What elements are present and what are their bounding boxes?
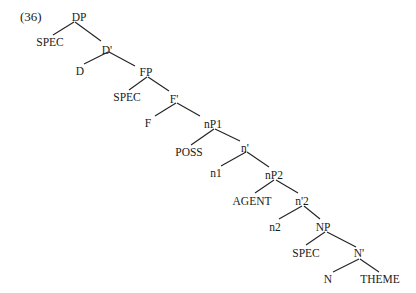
tree-edge-NP-SPEC3 [306,232,325,245]
tree-edge-Fbar-nP1 [177,103,200,116]
tree-edge-nbar2-n2 [279,206,302,219]
tree-node-dbar: D' [102,44,112,56]
tree-node-n1: n1 [210,167,222,179]
tree-node-fbar: F' [170,93,178,105]
tree-node-dp: DP [72,11,87,23]
tree-node-nbar: N' [354,247,364,259]
tree-node-spec1: SPEC [36,36,64,48]
tree-node-n2: n2 [269,221,281,233]
tree-node-nbar: n' [241,142,249,154]
tree-edge-nP2-AGENT [255,180,274,193]
tree-node-np: NP [316,221,331,233]
tree-edge-FP-Fbar [148,77,169,91]
tree-edge-DP-Dbar [75,22,101,41]
tree-edge-nP1-POSS [191,129,214,145]
tree-node-np2: nP2 [265,169,283,181]
tree-edge-Nbar-THEME [360,259,379,272]
tree-edge-nP1-nbar [215,129,240,141]
tree-node-spec2: SPEC [113,91,141,103]
tree-edge-NP-Nbar [327,232,356,247]
tree-node-n: N [324,273,332,285]
tree-edge-nP2-nbar2 [276,180,298,193]
tree-edge-nbar-n1 [221,152,246,166]
tree-node-nbar2: n'2 [295,195,309,207]
tree-node-fp: FP [140,66,153,78]
tree-edge-DP-SPEC1 [53,22,74,35]
tree-node-theme: THEME [360,273,400,285]
tree-edge-nbar-nP2 [247,152,269,167]
tree-node-np1: nP1 [204,118,222,130]
tree-edge-Nbar-N [333,259,359,272]
tree-edge-nbar2-NP [304,206,320,219]
tree-node-d: D [76,65,84,77]
example-number: (36) [20,10,42,24]
tree-edge-Dbar-FP [109,52,135,66]
tree-node-spec3: SPEC [292,247,320,259]
syntax-tree-figure: (36) DPSPECD'DFPSPECF'FnP1POSSn'n1nP2AGE… [0,0,416,293]
tree-edge-FP-SPEC2 [129,77,147,90]
tree-node-agent: AGENT [233,195,272,207]
tree-node-f: F [145,117,151,129]
tree-node-poss: POSS [175,146,203,158]
